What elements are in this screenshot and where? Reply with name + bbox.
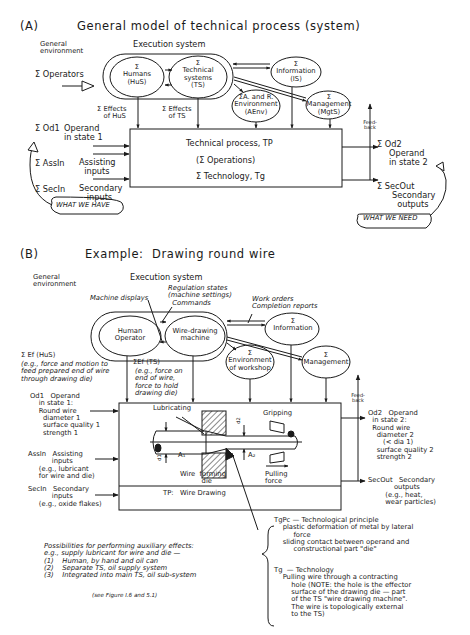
tp-wire-drawing-label: TP: Wire Drawing xyxy=(163,490,226,497)
effects-ts-label: Σ Effects of TS xyxy=(162,106,192,121)
possibilities-note: Possibilities for performing auxiliary e… xyxy=(44,543,196,580)
od2-desc-b: Od2 Operand in state 2: Round wire diame… xyxy=(368,410,434,461)
d2-label: d2 xyxy=(236,417,241,423)
assin-label-a: Σ AssIn xyxy=(35,159,65,168)
process-tech-a: Σ Technology, Tg xyxy=(196,172,265,181)
assin-desc-a: Assisting inputs xyxy=(79,158,116,176)
execution-system-label-b: Execution system xyxy=(130,273,202,282)
secin-desc-a: Secondary inputs xyxy=(79,184,122,202)
ef-ts-label: ΣEf (TS) xyxy=(133,359,160,366)
process-ops-a: (Σ Operations) xyxy=(196,156,255,165)
environment-label-b: Σ Environment of workshop xyxy=(224,350,276,372)
humans-label-a: Σ Humans (HuS) xyxy=(112,64,162,86)
panel-a-label: (A) xyxy=(20,20,39,32)
area-a1-label: A₁ xyxy=(178,452,185,459)
feedback-label-b: Feed- back xyxy=(346,393,370,403)
information-label-a: Σ Information (IS) xyxy=(270,61,322,83)
lubricating-label: Lubricating xyxy=(153,405,191,412)
gripping-label: Gripping xyxy=(263,410,292,417)
what-we-have-label: WHAT WE HAVE xyxy=(56,202,110,209)
management-label-b: Σ Management xyxy=(300,352,352,367)
wire-machine-label: Wire-drawing machine xyxy=(164,328,226,343)
panel-b-label: (B) xyxy=(20,248,39,260)
d1-label: d1 xyxy=(157,454,162,460)
what-we-need-label: WHAT WE NEED xyxy=(363,215,417,222)
information-label-b: Σ Information xyxy=(266,318,320,333)
die-label: Wire forming die xyxy=(180,471,226,486)
general-environment-label-b: General environment xyxy=(33,274,76,289)
secin-label-a: Σ SecIn xyxy=(35,185,65,194)
od1-label-a: Σ Od1 xyxy=(35,124,60,133)
general-environment-label-a: General environment xyxy=(40,41,83,56)
work-orders-label: Work orders Completion reports xyxy=(252,296,318,311)
tg-note: Tg — Technology Pulling wire through a c… xyxy=(274,567,411,618)
secout-desc-a: Secondary outputs xyxy=(392,191,435,209)
execution-system-label-a: Execution system xyxy=(133,40,205,49)
pulling-force-label: Pulling force xyxy=(265,471,288,486)
secin-desc-b: SecIn Secondary inputs (e.g., oxide flak… xyxy=(28,486,102,508)
see-figure-note: (see Figure I.6 and 5.1) xyxy=(92,593,157,599)
secout-desc-b: SecOut Secondary outputs (e.g., heat, we… xyxy=(368,477,436,506)
ts-label-a: Σ Technical systems (TS) xyxy=(170,60,226,89)
ef-hus-label: Σ Ef (HuS) xyxy=(21,352,55,359)
ef-ts-desc: (e.g., force on end of wire, force to ho… xyxy=(135,368,183,397)
regulation-states-label: Regulation states (machine settings) Com… xyxy=(168,285,232,307)
tgpc-note: TgPc — Technological principle plastic d… xyxy=(274,517,413,554)
human-operator-label: Human Operator xyxy=(100,328,160,343)
panel-b-title: Example: Drawing round wire xyxy=(85,248,276,260)
od1-desc-b: Od1 Operand in state 1: Round wire diame… xyxy=(30,393,100,437)
panel-a-title: General model of technical process (syst… xyxy=(77,20,360,32)
operators-label: Σ Operators xyxy=(35,70,84,79)
assin-desc-b: AssIn Assisting inputs (e.g., lubricant … xyxy=(28,451,95,480)
feedback-label-a: Feed- back xyxy=(358,120,382,130)
ef-hus-desc: (e.g., force and motion to feed prepared… xyxy=(21,361,110,383)
environment-label-a: ΣA. and R. Environment (AEnv) xyxy=(230,94,282,116)
machine-displays-label: Machine displays xyxy=(90,295,148,302)
process-title-a: Technical process, TP xyxy=(186,139,273,148)
effects-hus-label: Σ Effects of HuS xyxy=(97,106,127,121)
od1-desc-a: Operand in state 1 xyxy=(64,124,103,142)
management-label-a: Σ Management (MgtS) xyxy=(304,94,354,116)
area-a2-label: A₂ xyxy=(248,452,255,459)
od2-desc-a: Operand in state 2 xyxy=(389,149,428,167)
